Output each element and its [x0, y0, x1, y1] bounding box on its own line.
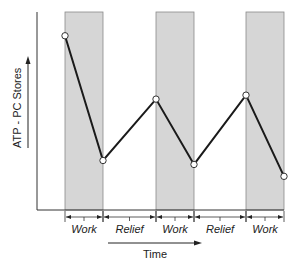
phase-segment-relief: Relief — [103, 211, 156, 235]
phase-segment-relief: Relief — [194, 211, 246, 235]
phase-segment-work: Work — [65, 211, 103, 235]
y-axis-label: ATP - PC Stores — [11, 67, 23, 148]
y-axis-arrowhead-icon — [26, 56, 31, 64]
phase-segment-work: Work — [156, 211, 194, 235]
work-bands — [65, 12, 284, 210]
arrow-left-icon — [195, 215, 200, 219]
arrow-right-icon — [278, 215, 283, 219]
work-relief-chart: ATP - PC Stores WorkReliefWorkReliefWork… — [0, 0, 297, 265]
arrow-left-icon — [157, 215, 162, 219]
data-point-marker — [62, 33, 68, 39]
arrow-left-icon — [247, 215, 252, 219]
work-band — [156, 12, 194, 210]
data-point-marker — [100, 157, 106, 163]
arrow-right-icon — [240, 215, 245, 219]
phase-label: Work — [252, 223, 278, 235]
phase-segment-work: Work — [246, 211, 284, 235]
phase-label: Relief — [206, 223, 235, 235]
arrow-right-icon — [97, 215, 102, 219]
phase-segments: WorkReliefWorkReliefWork — [65, 211, 284, 235]
data-point-marker — [281, 173, 287, 179]
data-point-marker — [153, 96, 159, 102]
arrow-left-icon — [104, 215, 109, 219]
arrow-right-icon — [188, 215, 193, 219]
work-band — [246, 12, 284, 210]
phase-label: Work — [71, 223, 97, 235]
phase-label: Relief — [115, 223, 144, 235]
phase-label: Work — [162, 223, 188, 235]
data-point-marker — [243, 92, 249, 98]
work-band — [65, 12, 103, 210]
x-axis-label: Time — [143, 248, 167, 260]
data-point-marker — [191, 161, 197, 167]
arrow-left-icon — [66, 215, 71, 219]
time-arrowhead-icon — [194, 241, 202, 246]
time-arrow-group: Time — [108, 241, 202, 261]
y-axis-label-group: ATP - PC Stores — [11, 56, 31, 148]
arrow-right-icon — [150, 215, 155, 219]
